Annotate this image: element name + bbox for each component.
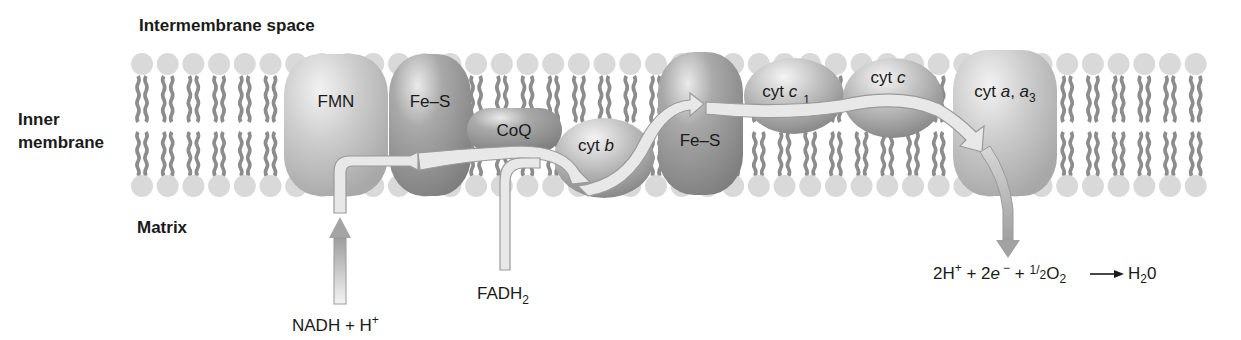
inner-membrane-label-1: Inner bbox=[18, 110, 60, 129]
complex-coq: CoQ bbox=[467, 108, 562, 152]
intermembrane-space-label: Intermembrane space bbox=[139, 16, 315, 35]
svg-text:2H+ + 2e− + 1/2O2: 2H+ + 2e− + 1/2O2 bbox=[933, 261, 1066, 286]
fadh2-label: FADH2 bbox=[477, 284, 529, 307]
arrow-from-nadh bbox=[329, 217, 351, 304]
reaction-arrow-icon bbox=[1114, 270, 1124, 278]
water-formation-equation: 2H+ + 2e− + 1/2O2 H20 bbox=[933, 261, 1156, 286]
fes-1-label: Fe–S bbox=[410, 92, 451, 111]
coq-label: CoQ bbox=[497, 121, 532, 140]
matrix-label: Matrix bbox=[137, 218, 188, 237]
complex-fes-1: Fe–S bbox=[389, 54, 471, 196]
electron-transport-chain-diagram: FMN Fe–S CoQ cyt b Fe–S cyt c1 cyt c cyt… bbox=[0, 0, 1241, 340]
inner-membrane-label-2: membrane bbox=[18, 133, 104, 152]
complex-fes-2: Fe–S bbox=[658, 52, 743, 195]
fes-2-label: Fe–S bbox=[680, 131, 721, 150]
cyt-c-label: cyt c bbox=[871, 68, 906, 87]
nadh-label: NADH + H+ bbox=[292, 313, 379, 335]
fmn-label: FMN bbox=[318, 92, 355, 111]
complex-cyt-c1: cyt c1 bbox=[744, 58, 844, 134]
cyt-b-label: cyt b bbox=[578, 136, 614, 155]
svg-text:H20: H20 bbox=[1128, 264, 1156, 286]
